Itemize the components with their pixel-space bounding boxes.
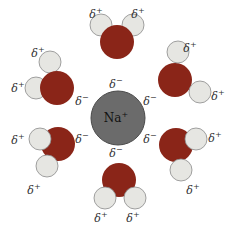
- partial-negative-label: δ−: [109, 76, 122, 91]
- partial-negative-label: δ−: [75, 131, 88, 146]
- partial-positive-label: δ+: [11, 132, 24, 147]
- oxygen-atom: [100, 25, 134, 59]
- diagram-canvas: δ+δ+δ+δ+δ+δ+δ+δ+δ+δ+δ+δ+Na+δ−δ−δ−δ−δ−δ−: [0, 0, 231, 229]
- hydrogen-atom: [36, 155, 58, 177]
- oxygen-atom: [40, 71, 74, 105]
- hydrogen-atom: [170, 159, 192, 181]
- partial-positive-label: δ+: [211, 88, 224, 103]
- hydrogen-atom: [185, 128, 207, 150]
- partial-negative-label: δ−: [143, 131, 156, 146]
- partial-negative-label: δ−: [75, 93, 88, 108]
- hydrogen-atom: [124, 187, 146, 209]
- hydrogen-atom: [29, 128, 51, 150]
- partial-positive-label: δ+: [126, 210, 139, 225]
- partial-positive-label: δ+: [27, 182, 40, 197]
- hydrogen-atom: [189, 81, 211, 103]
- partial-positive-label: δ+: [183, 40, 196, 55]
- partial-positive-label: δ+: [94, 210, 107, 225]
- partial-negative-label: δ−: [109, 145, 122, 160]
- partial-positive-label: δ+: [186, 182, 199, 197]
- hydration-diagram: δ+δ+δ+δ+δ+δ+δ+δ+δ+δ+δ+δ+Na+δ−δ−δ−δ−δ−δ− …: [0, 0, 231, 229]
- partial-positive-label: δ+: [11, 80, 24, 95]
- oxygen-atom: [158, 63, 192, 97]
- hydrogen-atom: [39, 51, 61, 73]
- hydrogen-atom: [94, 187, 116, 209]
- partial-positive-label: δ+: [208, 130, 221, 145]
- partial-negative-label: δ−: [143, 93, 156, 108]
